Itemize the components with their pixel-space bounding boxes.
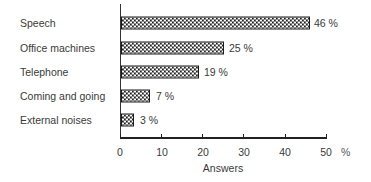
x-tick-label: 30 — [238, 146, 250, 158]
value-label-coming-and-going: 7 % — [156, 90, 174, 102]
category-label-telephone: Telephone — [20, 66, 68, 78]
x-tick — [326, 134, 327, 138]
category-label-external-noises: External noises — [20, 114, 92, 126]
x-tick — [120, 134, 121, 138]
x-tick — [161, 134, 162, 138]
value-label-office-machines: 25 % — [229, 42, 253, 54]
x-axis-title: Answers — [203, 162, 243, 174]
bar-coming-and-going — [121, 90, 150, 103]
x-tick — [285, 134, 286, 138]
category-label-office-machines: Office machines — [20, 42, 95, 54]
value-label-speech: 46 % — [314, 17, 338, 29]
bar-telephone — [121, 66, 199, 79]
category-label-coming-and-going: Coming and going — [20, 90, 105, 102]
x-tick-label: 0 — [117, 146, 123, 158]
value-label-external-noises: 3 % — [140, 114, 158, 126]
x-tick-label: 20 — [197, 146, 209, 158]
x-tick-label: 40 — [279, 146, 291, 158]
x-tick-label: 10 — [156, 146, 168, 158]
x-axis-unit: % — [341, 146, 350, 158]
bar-speech — [121, 17, 310, 30]
x-axis-line — [120, 137, 327, 139]
category-label-speech: Speech — [20, 17, 56, 29]
x-tick-label: 50 — [320, 146, 332, 158]
x-tick — [243, 134, 244, 138]
x-tick — [202, 134, 203, 138]
bar-external-noises — [121, 114, 134, 127]
value-label-telephone: 19 % — [204, 66, 228, 78]
bar-office-machines — [121, 42, 224, 55]
